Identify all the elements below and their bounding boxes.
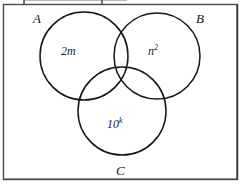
set-label-c: C — [116, 164, 125, 177]
region-b-exponent: 2 — [154, 43, 158, 52]
region-a-base: 2m — [61, 44, 76, 58]
set-label-b: B — [196, 12, 204, 25]
region-label-b-only: n2 — [148, 45, 158, 57]
region-label-a-only: 2m — [61, 45, 76, 57]
set-label-a: A — [33, 12, 41, 25]
venn-canvas — [0, 0, 243, 184]
venn-diagram-figure: A B C 2m n2 10k — [0, 0, 243, 184]
region-c-exponent: k — [119, 116, 123, 125]
region-label-c-only: 10k — [107, 118, 123, 130]
region-c-base: 10 — [107, 117, 119, 131]
